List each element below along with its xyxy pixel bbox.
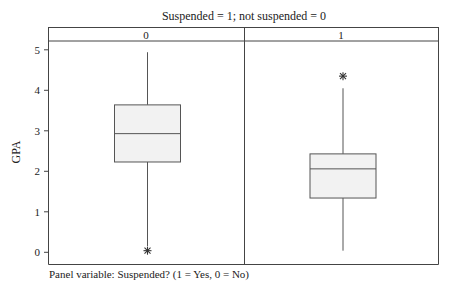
- box-panel-0: [115, 52, 181, 254]
- y-axis: 012345: [35, 44, 49, 258]
- panel-variable-caption: Panel variable: Suspended? (1 = Yes, 0 =…: [49, 268, 249, 281]
- boxes: [115, 52, 377, 254]
- iqr-box: [310, 154, 376, 198]
- box-plot-chart: Suspended = 1; not suspended = 0 0 1 012…: [0, 0, 454, 284]
- y-axis-label: GPA: [9, 140, 23, 163]
- panel-strip: 0 1: [49, 28, 439, 42]
- y-tick-label: 5: [35, 44, 41, 56]
- panel-label-1: 1: [338, 29, 344, 41]
- chart-title: Suspended = 1; not suspended = 0: [162, 9, 326, 23]
- outlier-asterisk-icon: [144, 247, 152, 255]
- y-tick-label: 1: [35, 206, 41, 218]
- box-panel-1: [310, 72, 376, 251]
- y-tick-label: 0: [35, 246, 41, 258]
- plot-frame: [49, 41, 439, 265]
- y-tick-label: 2: [35, 165, 41, 177]
- y-tick-label: 4: [35, 84, 41, 96]
- outlier-asterisk-icon: [339, 72, 347, 80]
- y-tick-label: 3: [35, 125, 41, 137]
- panel-label-0: 0: [143, 29, 149, 41]
